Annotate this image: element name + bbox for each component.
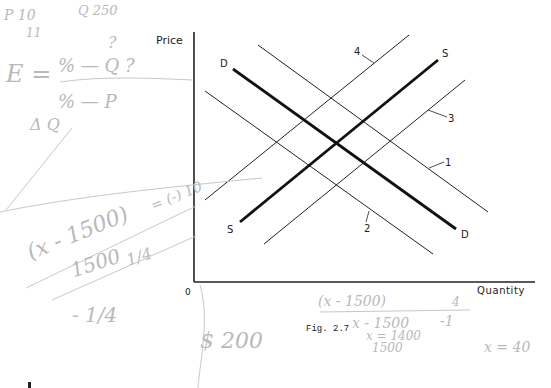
demand-label-top: D (220, 58, 228, 69)
note-stroke-1 (6, 128, 72, 210)
scan-mark (28, 382, 31, 388)
note-p10: P 10 (3, 7, 36, 23)
note-price: $ 200 (200, 328, 263, 353)
demand-curves (205, 45, 488, 254)
note-eq6-den: 1500 (372, 341, 403, 355)
note-eq4-bar (320, 310, 470, 312)
supply-label-top: S (442, 48, 448, 59)
supply-demand-diagram: Price Quantity 0 D D S S 4 3 1 2 Fig. 2.… (0, 0, 551, 388)
note-stroke-2 (0, 178, 262, 212)
note-eq4-den: 4 (451, 295, 460, 309)
note-eq4: (x - 1500) (318, 293, 386, 309)
demand-label-bottom: D (461, 229, 469, 240)
leader-line-3 (428, 110, 447, 117)
figure-caption: Fig. 2.7 (306, 324, 349, 334)
demand-curve-shift-4 (258, 45, 488, 212)
note-eq7: x = 40 (484, 339, 530, 355)
supply-curve-shift-3 (264, 80, 465, 244)
note-eq5-rhs: -1 (440, 313, 454, 329)
origin-label: 0 (185, 287, 191, 297)
supply-curve-original (240, 60, 438, 222)
demand-curve-original (233, 69, 456, 229)
leader-line-2 (366, 211, 369, 222)
note-eq1-result: = (-) 10 (148, 178, 204, 213)
leader-line-1 (429, 162, 444, 168)
leader-line-4 (362, 55, 374, 63)
note-11: 11 (26, 26, 41, 40)
note-fraction-bar (60, 78, 192, 82)
note-eq2-num: 1500 (68, 244, 124, 283)
note-question: ? (108, 33, 117, 52)
note-elasticity-den: % — P (58, 91, 118, 112)
y-axis-label: Price (156, 34, 183, 47)
note-elasticity-lhs: E = (5, 60, 51, 88)
shift-label-4: 4 (354, 46, 360, 57)
handwritten-notes: P 10 11 Q 250 ? E = % — Q ? % — P Δ Q (x… (0, 3, 530, 388)
note-eq3: - 1/4 (72, 303, 117, 327)
x-axis-label: Quantity (477, 285, 525, 296)
note-q250: Q 250 (78, 3, 118, 18)
supply-curves (205, 35, 465, 244)
supply-label-bottom: S (227, 224, 233, 235)
shift-label-2: 2 (364, 223, 370, 234)
shift-label-3: 3 (448, 113, 454, 124)
supply-curve-shift-4 (205, 35, 409, 200)
note-delta-q: Δ Q (29, 115, 60, 134)
axes: Price Quantity 0 (156, 32, 535, 297)
shift-label-1: 1 (445, 157, 451, 168)
note-elasticity-num: % — Q ? (58, 55, 135, 76)
